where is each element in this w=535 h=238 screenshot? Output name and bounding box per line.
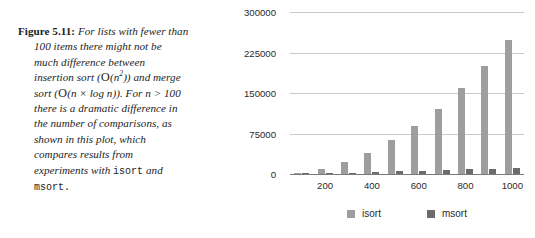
legend-item-isort: isort (347, 208, 381, 219)
caption-text-4c: )) and merge (123, 71, 181, 83)
bar-isort (505, 40, 512, 174)
bar-msort (302, 173, 309, 175)
legend-item-msort: msort (427, 208, 467, 219)
x-axis-tick-label: 1000 (501, 180, 524, 191)
x-axis-tick-label: 400 (360, 180, 383, 191)
bigo-symbol-2: O (58, 87, 67, 100)
plot-area: 075000150000225000300000 (290, 12, 524, 175)
legend-swatch-msort-icon (427, 210, 435, 218)
bar-isort (481, 66, 488, 174)
bar-isort (458, 88, 465, 174)
bar-group (454, 12, 477, 174)
caption-text-5c: > 100 (151, 87, 181, 99)
x-axis-tick-label: 200 (313, 180, 336, 191)
figure-page: Figure 5.11: For lists with fewer than 1… (0, 0, 535, 238)
bar-msort (466, 169, 473, 174)
bigo-symbol-1: O (101, 71, 110, 84)
bar-isort (435, 109, 442, 174)
bar-isort (318, 169, 325, 174)
caption-text-4b: (n (110, 71, 119, 83)
bar-msort (349, 173, 356, 175)
x-axis-tick-label: 800 (454, 180, 477, 191)
bar-msort (396, 171, 403, 174)
caption-text-7: the number of comparisons, as (34, 117, 172, 129)
legend-swatch-isort-icon (347, 210, 355, 218)
x-axis-tick-labels: 200 400 600 800 1000 (290, 180, 524, 191)
x-axis-tick-blank (384, 180, 407, 191)
caption-text-9: compares results from (34, 148, 133, 160)
y-axis-tick-label: 225000 (214, 47, 276, 58)
bar-group (337, 12, 360, 174)
y-axis-tick-label: 300000 (214, 7, 276, 18)
bar-group (360, 12, 383, 174)
y-axis-tick-label: 150000 (214, 88, 276, 99)
bar-group (313, 12, 336, 174)
bar-isort (294, 173, 301, 175)
chart-legend: isort msort (290, 208, 524, 219)
caption-text-2: 100 items there might not be (34, 40, 162, 52)
bar-isort (388, 140, 395, 174)
bar-msort (326, 173, 333, 175)
caption-text-5a: sort ( (34, 87, 58, 99)
x-axis-tick-blank (477, 180, 500, 191)
bar-group (290, 12, 313, 174)
bar-msort (489, 169, 496, 174)
bar-group (477, 12, 500, 174)
x-axis-tick-label: 600 (407, 180, 430, 191)
caption-line-9: compares results from (18, 147, 250, 162)
bar-msort (372, 172, 379, 174)
caption-line-4: insertion sort (O(n2)) and merge (18, 70, 250, 85)
x-axis-tick-blank (430, 180, 453, 191)
caption-line-6: there is a dramatic difference in (18, 101, 250, 116)
bar-group (407, 12, 430, 174)
y-axis-tick-label: 0 (214, 169, 276, 180)
caption-line-11: msort. (18, 179, 250, 195)
caption-line-1: Figure 5.11: For lists with fewer than (18, 24, 250, 39)
bar-series-container (290, 12, 524, 174)
x-axis-tick-blank (337, 180, 360, 191)
caption-text-6: there is a dramatic difference in (34, 102, 177, 114)
caption-text-10a: experiments with (34, 164, 113, 176)
x-axis-tick-blank (290, 180, 313, 191)
bar-msort (513, 168, 520, 174)
bar-isort (341, 162, 348, 174)
caption-text-4a: insertion sort ( (34, 71, 101, 83)
isort-code-ref: isort (113, 166, 143, 177)
bar-msort (419, 171, 426, 174)
msort-code-ref: msort (34, 182, 64, 193)
bar-group (501, 12, 524, 174)
caption-text-8: shown in this plot, which (34, 133, 146, 145)
bar-group (430, 12, 453, 174)
caption-text-10b: and (143, 164, 163, 176)
y-axis-tick-label: 75000 (214, 128, 276, 139)
bar-msort (443, 170, 450, 174)
bar-isort (364, 153, 371, 174)
bar-chart: 075000150000225000300000 200 400 600 800… (236, 4, 532, 234)
bar-group (384, 12, 407, 174)
bar-isort (411, 126, 418, 174)
caption-text-3: much difference between (34, 56, 145, 68)
caption-text-1: For lists with fewer than (78, 25, 188, 37)
figure-number-label: Figure 5.11: (18, 25, 75, 37)
legend-label-msort: msort (442, 208, 467, 219)
caption-text-5b: (n × log n)). For (67, 87, 145, 99)
legend-label-isort: isort (362, 208, 381, 219)
caption-text-11b: . (64, 182, 70, 193)
